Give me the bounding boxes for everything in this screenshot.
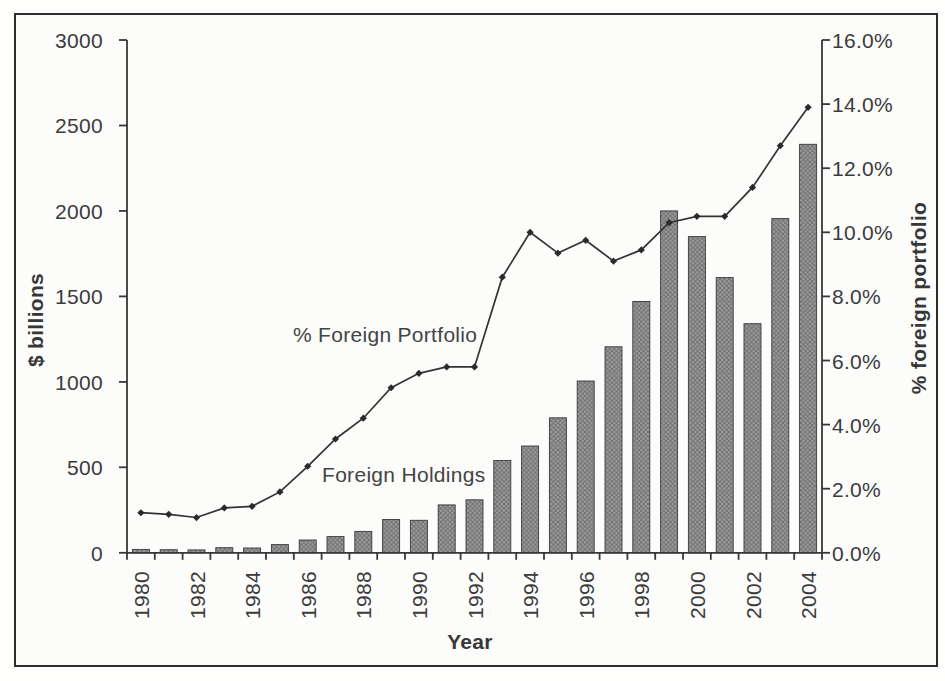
figure: 050010001500200025003000 0.0%2.0%4.0%6.0… — [0, 0, 945, 681]
bar-2002 — [744, 324, 761, 553]
right-tick-6.0%: 6.0% — [832, 350, 881, 371]
right-tick-16.0%: 16.0% — [832, 30, 893, 51]
bars-foreign-holdings — [132, 144, 816, 553]
marker-1981 — [165, 511, 172, 518]
left-tick-3000: 3000 — [55, 30, 103, 51]
marker-1982 — [193, 514, 200, 521]
right-tick-12.0%: 12.0% — [832, 158, 893, 179]
bar-1987 — [327, 537, 344, 553]
right-tick-10.0%: 10.0% — [832, 222, 893, 243]
bar-2003 — [772, 219, 789, 553]
left-tick-1500: 1500 — [55, 286, 103, 307]
bar-2004 — [800, 144, 817, 553]
bar-1992 — [466, 500, 483, 553]
x-tick-1986: 1986 — [297, 571, 318, 619]
bar-1996 — [577, 381, 594, 553]
bar-1988 — [355, 531, 372, 552]
marker-1991 — [443, 363, 450, 370]
left-tick-500: 500 — [67, 457, 103, 478]
x-tick-1988: 1988 — [353, 571, 374, 619]
bar-2000 — [688, 237, 705, 553]
x-tick-1984: 1984 — [242, 571, 263, 619]
right-tick-2.0%: 2.0% — [832, 478, 881, 499]
right-tick-4.0%: 4.0% — [832, 414, 881, 435]
x-tick-2002: 2002 — [742, 571, 763, 619]
marker-2000 — [693, 213, 700, 220]
x-tick-1990: 1990 — [408, 571, 429, 619]
bar-1991 — [438, 505, 455, 553]
bar-1989 — [383, 520, 400, 553]
marker-1980 — [137, 509, 144, 516]
bar-1990 — [410, 520, 427, 553]
bar-1986 — [299, 540, 316, 553]
x-tick-1980: 1980 — [130, 571, 151, 619]
left-tick-1000: 1000 — [55, 371, 103, 392]
bar-series-label: Foreign Holdings — [322, 463, 486, 487]
right-tick-8.0%: 8.0% — [832, 286, 881, 307]
line-series-label: % Foreign Portfolio — [293, 323, 477, 347]
x-tick-1996: 1996 — [575, 571, 596, 619]
x-tick-1994: 1994 — [520, 571, 541, 619]
x-tick-2000: 2000 — [686, 571, 707, 619]
bar-1998 — [633, 302, 650, 553]
left-axis-title: $ billions — [24, 273, 48, 367]
bar-1999 — [661, 211, 678, 553]
right-tick-0.0%: 0.0% — [832, 542, 881, 563]
bar-1993 — [494, 461, 511, 553]
right-axis-title: % foreign portfolio — [907, 202, 931, 394]
x-tick-1998: 1998 — [631, 571, 652, 619]
bar-1997 — [605, 347, 622, 553]
right-tick-14.0%: 14.0% — [832, 94, 893, 115]
x-tick-2004: 2004 — [798, 571, 819, 619]
marker-1992 — [471, 363, 478, 370]
bar-1995 — [549, 418, 566, 553]
bar-1994 — [522, 446, 539, 553]
line-percent-foreign-portfolio — [137, 104, 811, 521]
left-tick-2500: 2500 — [55, 115, 103, 136]
x-tick-1992: 1992 — [464, 571, 485, 619]
left-tick-2000: 2000 — [55, 200, 103, 221]
marker-1984 — [249, 503, 256, 510]
marker-1983 — [221, 504, 228, 511]
x-axis-title: Year — [447, 630, 493, 654]
x-tick-1982: 1982 — [186, 571, 207, 619]
bar-1985 — [271, 545, 288, 553]
left-tick-0: 0 — [91, 542, 103, 563]
marker-1990 — [415, 370, 422, 377]
bar-2001 — [716, 278, 733, 553]
